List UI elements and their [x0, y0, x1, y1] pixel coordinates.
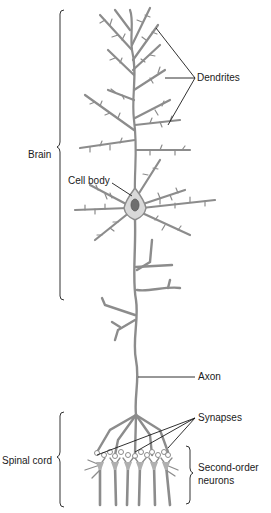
label-axon: Axon [198, 371, 221, 383]
label-second-order-line2: neurons [198, 475, 234, 487]
label-cell-body: Cell body [68, 175, 110, 187]
synapses-leader [97, 418, 195, 455]
nucleus [131, 199, 139, 211]
spinal-cord-bracket [57, 412, 64, 507]
label-dendrites: Dendrites [197, 72, 240, 84]
label-synapses: Synapses [198, 412, 242, 424]
brain-bracket [57, 10, 64, 300]
cell-body-leader [112, 183, 132, 196]
dendrites-leader [156, 28, 195, 125]
label-second-order-line1: Second-order [198, 462, 259, 474]
second-order-bracket [186, 446, 193, 504]
label-brain: Brain [28, 149, 51, 161]
axon [134, 220, 137, 415]
label-spinal-cord: Spinal cord [2, 455, 52, 467]
